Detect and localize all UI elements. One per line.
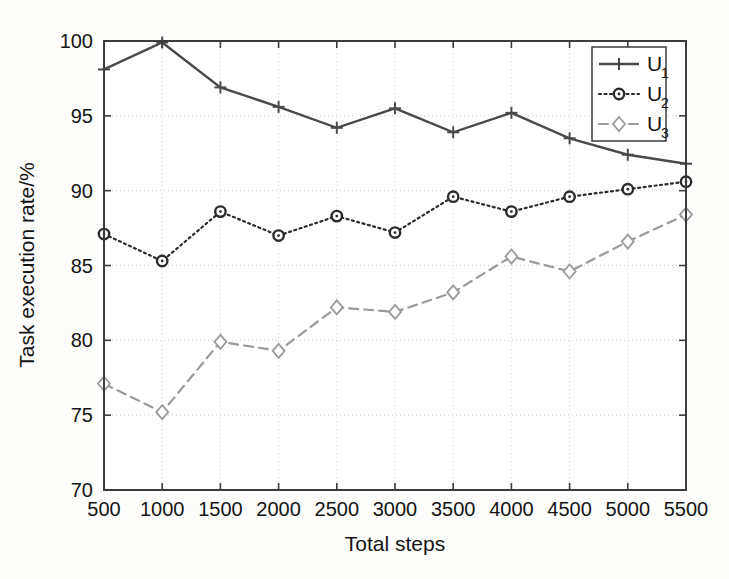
- data-point-marker: [390, 227, 400, 237]
- data-point-marker: [273, 230, 283, 240]
- x-tick-label: 4500: [547, 498, 592, 520]
- x-axis-title: Total steps: [345, 532, 445, 555]
- y-tick-label: 90: [71, 180, 93, 202]
- y-tick-label: 80: [71, 329, 93, 351]
- x-tick-label: 5000: [606, 498, 651, 520]
- chart-figure: 5001000150020002500300035004000450050005…: [0, 0, 729, 579]
- data-point-marker: [506, 206, 516, 216]
- data-point-marker: [215, 206, 225, 216]
- y-tick-label: 70: [71, 479, 93, 501]
- x-tick-label: 3500: [431, 498, 476, 520]
- x-tick-label: 1000: [140, 498, 185, 520]
- data-point-marker: [448, 191, 458, 201]
- legend[interactable]: U1U2U3: [592, 47, 669, 141]
- data-point-marker: [564, 191, 574, 201]
- legend-label-U1: U: [647, 52, 662, 75]
- y-tick-label: 75: [71, 404, 93, 426]
- legend-subscript-U3: 3: [661, 125, 669, 141]
- x-tick-label: 2500: [315, 498, 360, 520]
- data-point-marker: [614, 89, 624, 99]
- line-chart: 5001000150020002500300035004000450050005…: [0, 0, 729, 579]
- data-point-marker: [157, 256, 167, 266]
- x-tick-labels: 5001000150020002500300035004000450050005…: [87, 498, 708, 520]
- legend-label-U3: U: [647, 112, 662, 135]
- x-tick-label: 3000: [373, 498, 418, 520]
- x-tick-label: 2000: [256, 498, 301, 520]
- y-tick-label: 85: [71, 255, 93, 277]
- legend-label-U2: U: [647, 82, 662, 105]
- legend-subscript-U1: 1: [661, 65, 669, 81]
- x-tick-label: 500: [87, 498, 120, 520]
- y-tick-label: 95: [71, 105, 93, 127]
- x-tick-label: 4000: [489, 498, 534, 520]
- y-tick-label: 100: [60, 30, 93, 52]
- y-axis-title: Task execution rate/%: [15, 162, 38, 367]
- data-point-marker: [332, 211, 342, 221]
- x-tick-label: 1500: [198, 498, 243, 520]
- data-point-marker: [623, 184, 633, 194]
- x-tick-label: 5500: [664, 498, 709, 520]
- legend-subscript-U2: 2: [661, 95, 669, 111]
- y-tick-labels: 707580859095100: [60, 30, 93, 501]
